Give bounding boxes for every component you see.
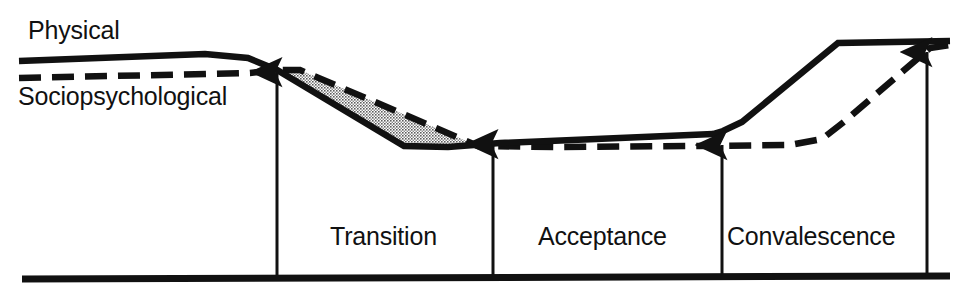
physical-curve-label: Physical <box>28 16 120 45</box>
phase-label-acceptance: Acceptance <box>538 222 667 251</box>
phase-label-convalescence: Convalescence <box>727 222 895 251</box>
phase-label-transition: Transition <box>330 222 437 251</box>
figure-root: Physical Sociopsychological Transition A… <box>0 0 961 293</box>
baseline-axis <box>22 276 950 279</box>
sociopsychological-curve-label: Sociopsychological <box>18 82 227 111</box>
